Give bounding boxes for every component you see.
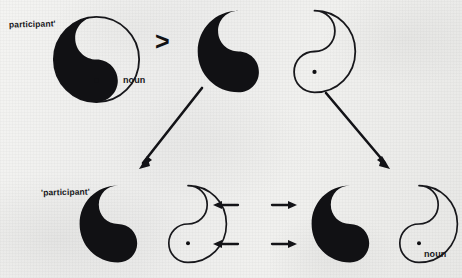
label-noun-bottom: noun	[424, 250, 446, 259]
top-right-outline-half	[294, 11, 355, 93]
arrow-inner-right-lower	[272, 240, 297, 248]
arrow-diagonal-right	[326, 93, 390, 169]
top-right-solid-half	[198, 11, 259, 93]
yinyang-dot	[94, 79, 99, 84]
node-bottom-left-split	[80, 186, 227, 263]
label-participant-top: participant'	[9, 19, 56, 29]
arrow-inner-left-upper	[213, 201, 238, 209]
bottom-left-dot	[186, 241, 190, 245]
node-top-right-split	[198, 11, 356, 93]
arrow-diagonal-left	[139, 88, 202, 169]
label-participant-bottom: 'participant'	[41, 188, 90, 197]
bottom-left-solid-half	[80, 186, 138, 263]
bottom-left-outline-half	[169, 186, 227, 263]
diagram-artwork	[0, 0, 462, 278]
arrow-inner-right-upper	[272, 201, 297, 209]
greater-than-symbol: >	[155, 29, 170, 54]
arrow-inner-left-lower	[213, 240, 238, 248]
top-right-dot	[312, 70, 316, 74]
yinyang-dark-half	[54, 17, 118, 102]
bottom-right-solid-half	[312, 186, 370, 263]
bottom-right-dot	[417, 241, 421, 245]
label-noun-top: noun	[123, 76, 145, 85]
diagram-page: > participant' noun 'participant' noun	[0, 0, 462, 278]
node-top-left-whole	[54, 17, 139, 102]
